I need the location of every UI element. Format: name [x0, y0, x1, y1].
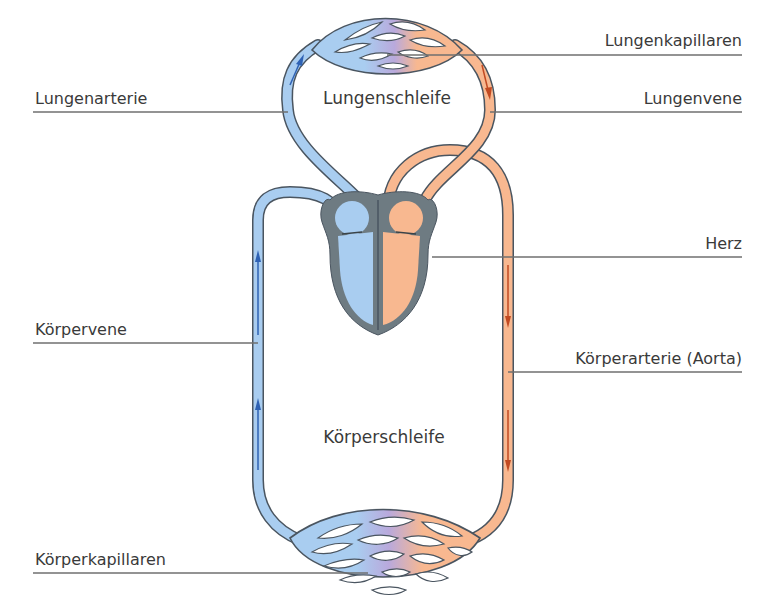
label-koerperkapillaren: Körperkapillaren	[35, 550, 166, 569]
label-herz: Herz	[705, 234, 742, 253]
heart	[321, 192, 437, 335]
label-lungenkapillaren: Lungenkapillaren	[605, 31, 742, 50]
label-koerpervene: Körpervene	[35, 320, 127, 339]
label-koerperarterie: Körperarterie (Aorta)	[575, 349, 742, 368]
left-ventricle	[383, 232, 420, 325]
circulation-diagram: Lungenkapillaren Lungenarterie Lungenven…	[0, 0, 760, 615]
right-atrium	[335, 201, 369, 235]
label-lungenvene: Lungenvene	[644, 89, 742, 108]
koerperkapillaren-network	[290, 510, 480, 595]
left-atrium	[389, 201, 423, 235]
right-ventricle	[338, 232, 373, 325]
label-lungenschleife: Lungenschleife	[323, 88, 451, 108]
label-koerperschleife: Körperschleife	[323, 427, 444, 447]
lungenkapillaren-network	[312, 19, 462, 75]
label-lungenarterie: Lungenarterie	[35, 89, 147, 108]
